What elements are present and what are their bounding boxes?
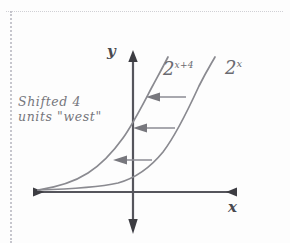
y-axis-arrow-up <box>128 50 137 62</box>
curve-label-parent-exponent: x <box>236 58 242 69</box>
annotation-note: Shifted 4 units "west" <box>18 94 102 124</box>
annotation-note-line1: Shifted 4 <box>18 94 102 109</box>
curve-label-shifted-base: 2 <box>163 58 174 79</box>
y-axis <box>128 50 137 234</box>
curve-label-shifted: 2x+4 <box>163 58 194 79</box>
figure-canvas: Shifted 4 units "west" 2x+4 2x y x <box>0 0 290 243</box>
shift-arrow-middle <box>133 124 175 133</box>
curve-label-parent: 2x <box>225 57 242 78</box>
curve-label-shifted-exponent: x+4 <box>174 60 194 70</box>
shift-arrow-top <box>146 93 186 102</box>
x-axis-arrow-right <box>226 188 237 197</box>
curve-label-parent-base: 2 <box>225 57 236 78</box>
y-axis-arrow-down <box>128 219 137 234</box>
x-axis-label: x <box>228 198 237 216</box>
annotation-note-line2: units "west" <box>18 109 102 124</box>
y-axis-label: y <box>107 42 116 60</box>
